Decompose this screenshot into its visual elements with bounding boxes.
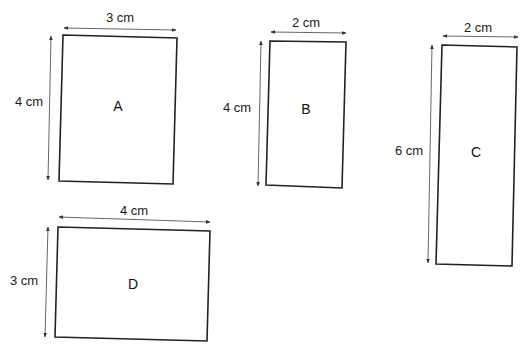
shape-b-group: 2 cm4 cmB <box>223 15 346 188</box>
width-label: 3 cm <box>106 10 134 25</box>
width-arrow-icon <box>443 36 518 37</box>
width-label: 2 cm <box>292 15 320 30</box>
height-label: 4 cm <box>223 100 251 115</box>
width-arrow-icon <box>271 32 346 33</box>
shape-letter-label: D <box>128 276 138 292</box>
shape-c-group: 2 cm6 cmC <box>395 20 518 266</box>
height-label: 3 cm <box>10 273 38 288</box>
height-label: 6 cm <box>395 143 423 158</box>
height-arrow-icon <box>428 45 432 263</box>
shapes-layer: 3 cm4 cmA2 cm4 cmB2 cm6 cmC4 cm3 cmD <box>10 10 518 341</box>
height-arrow-icon <box>258 41 261 186</box>
width-arrow-icon <box>64 28 176 30</box>
width-label: 2 cm <box>464 20 492 35</box>
shape-letter-label: B <box>301 101 310 117</box>
height-arrow-icon <box>48 36 51 180</box>
height-arrow-icon <box>45 227 48 337</box>
height-label: 4 cm <box>15 94 43 109</box>
shape-a-group: 3 cm4 cmA <box>15 10 177 184</box>
width-label: 4 cm <box>120 203 148 218</box>
shape-letter-label: A <box>113 98 123 114</box>
shape-letter-label: C <box>471 144 481 160</box>
shape-d-group: 4 cm3 cmD <box>10 203 210 341</box>
diagram-canvas: 3 cm4 cmA2 cm4 cmB2 cm6 cmC4 cm3 cmD <box>0 0 530 352</box>
